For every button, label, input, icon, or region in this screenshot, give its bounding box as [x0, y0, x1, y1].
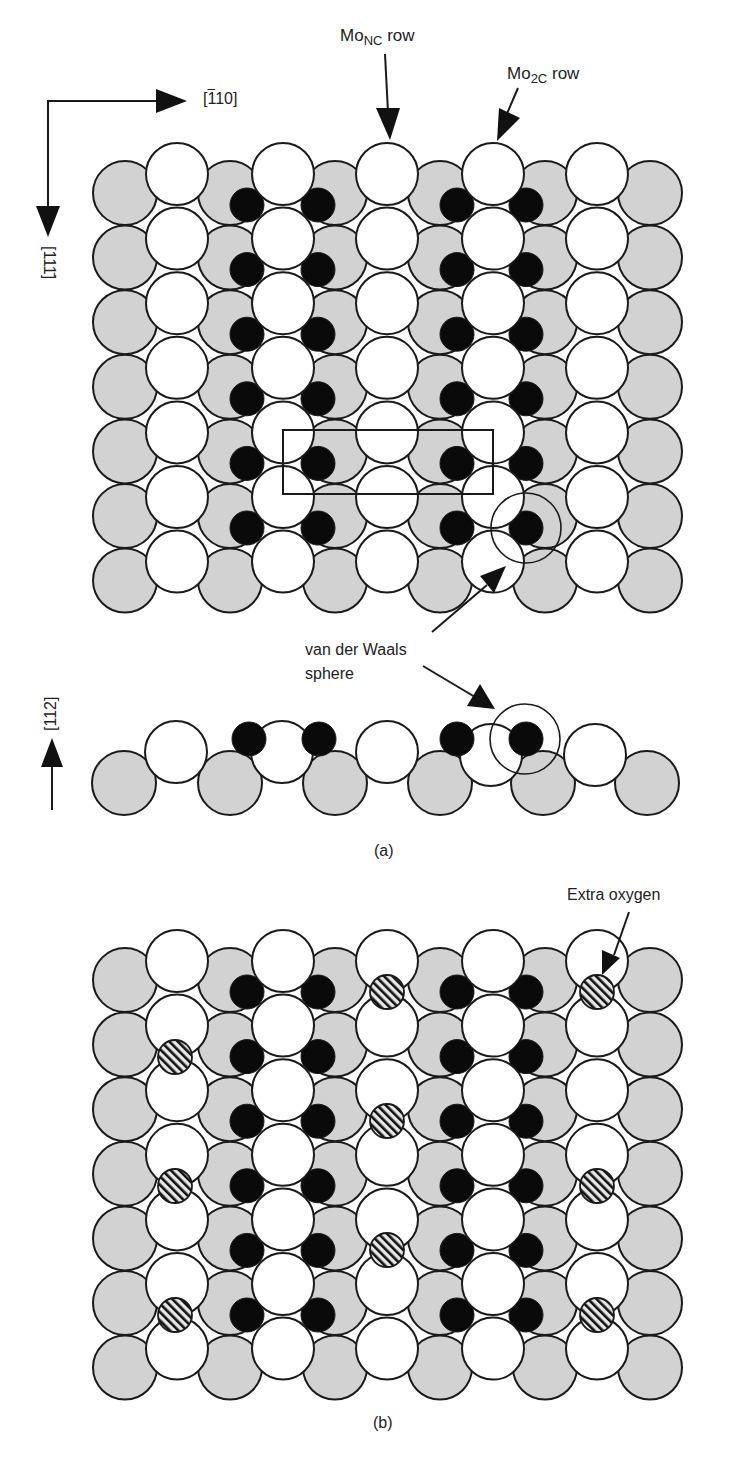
surface-mo-atom [356, 143, 418, 205]
carbon-atom-core [443, 978, 471, 1006]
carbon-atom [302, 722, 336, 756]
carbon-atom-core [443, 1172, 471, 1200]
surface-mo-atom [566, 208, 628, 270]
carbon-atom-core [512, 514, 540, 542]
surface-mo-atom [252, 208, 314, 270]
extra-oxygen-label: Extra oxygen [567, 886, 660, 904]
vdw-label-line1: van der Waals [305, 638, 407, 662]
surface-mo-atom [252, 930, 314, 992]
extra-oxygen-label-text: Extra oxygen [567, 886, 660, 903]
carbon-atom-core [233, 1107, 261, 1135]
carbon-atom-core [233, 449, 261, 477]
surface-mo-atom [252, 1059, 314, 1121]
carbon-atom-core [512, 1301, 540, 1329]
surface-mo-atom [566, 337, 628, 399]
carbon-atom-core [233, 1301, 261, 1329]
carbon-atom-core [443, 1107, 471, 1135]
surface-mo-atom [462, 1318, 524, 1380]
carbon-atom-core [233, 385, 261, 413]
extra-oxygen-atom [370, 1233, 404, 1267]
surface-mo-atom [146, 466, 208, 528]
surface-mo-atom [252, 531, 314, 593]
surface-mo-atom [146, 272, 208, 334]
surface-mo-atom [462, 1124, 524, 1186]
carbon-atom-core [233, 1236, 261, 1264]
carbon-atom-core [512, 1107, 540, 1135]
extra-oxygen-atom [370, 1104, 404, 1138]
carbon-atom-core [443, 1301, 471, 1329]
extra-oxygen-atom [580, 1169, 614, 1203]
carbon-atom [509, 722, 543, 756]
axis-label-side: [112] [42, 697, 60, 731]
carbon-atom-core [304, 385, 332, 413]
carbon-atom-core [512, 449, 540, 477]
carbon-atom-core [304, 978, 332, 1006]
surface-mo-atom [462, 1253, 524, 1315]
carbon-atom-core [304, 1107, 332, 1135]
carbon-atom-core [233, 1043, 261, 1071]
surface-mo-atom [462, 930, 524, 992]
extra-oxygen-atom [158, 1298, 192, 1332]
carbon-atom-core [233, 1172, 261, 1200]
surface-mo-atom [252, 1188, 314, 1250]
surface-mo-atom [146, 401, 208, 463]
surface-mo-atom [146, 143, 208, 205]
surface-mo-atom [566, 401, 628, 463]
panel-a-caption-text: (a) [374, 842, 394, 859]
surface-mo-atom [252, 337, 314, 399]
carbon-atom-core [512, 978, 540, 1006]
arrowhead-down-icon [376, 108, 400, 140]
surface-mo-atom [356, 272, 418, 334]
surface-mo-atom [462, 337, 524, 399]
carbon-atom-core [443, 191, 471, 219]
mo-2c-row-base: Mo [507, 64, 531, 83]
surface-mo-atom [566, 1059, 628, 1121]
vdw-sphere-label: van der Waals sphere [305, 638, 407, 686]
carbon-atom-core [304, 1301, 332, 1329]
extra-oxygen-atom [158, 1169, 192, 1203]
panel-b-caption-text: (b) [373, 1414, 393, 1431]
surface-mo-atom [252, 1318, 314, 1380]
carbon-atom-core [443, 1236, 471, 1264]
carbon-atom-core [443, 320, 471, 348]
carbon-atom-core [443, 514, 471, 542]
extra-oxygen-atom [158, 1040, 192, 1074]
surface-mo-atom [146, 930, 208, 992]
surface-mo-atom [356, 466, 418, 528]
panel-a-side-view [92, 704, 679, 815]
panel-a-top-view [93, 143, 682, 613]
mo-nc-row-suffix: row [382, 26, 414, 45]
surface-mo-atom [356, 721, 418, 783]
surface-mo-atom [252, 995, 314, 1057]
mo-nc-row-label: MoNC row [340, 26, 415, 48]
surface-mo-atom [462, 995, 524, 1057]
carbon-atom-core [233, 320, 261, 348]
arrowhead-down-icon [36, 206, 60, 237]
surface-mo-atom [462, 272, 524, 334]
surface-mo-atom [462, 208, 524, 270]
carbon-atom [440, 722, 474, 756]
carbon-atom-core [233, 191, 261, 219]
carbon-atom [232, 722, 266, 756]
surface-mo-atom [356, 401, 418, 463]
surface-mo-atom [356, 337, 418, 399]
carbon-atom-core [512, 385, 540, 413]
mo-nc-row-subscript: NC [364, 33, 383, 48]
surface-mo-atom [252, 272, 314, 334]
extra-oxygen-atom [370, 975, 404, 1009]
arrowhead-right-icon [156, 89, 187, 113]
mo-2c-row-label: Mo2C row [507, 64, 579, 86]
carbon-atom-core [512, 320, 540, 348]
mo-nc-row-arrow [385, 54, 388, 112]
carbon-atom-core [233, 514, 261, 542]
vdw-label-line2: sphere [305, 662, 407, 686]
carbon-atom-core [233, 256, 261, 284]
axis-label-side-text: [112] [42, 697, 59, 731]
panel-b-caption: (b) [373, 1414, 393, 1432]
surface-mo-atom [566, 272, 628, 334]
mo2c-surface-structure-figure [0, 0, 729, 1467]
surface-mo-atom [145, 721, 207, 783]
axis-label-horizontal: [110] [203, 90, 237, 108]
surface-mo-atom [146, 531, 208, 593]
carbon-atom-core [304, 514, 332, 542]
